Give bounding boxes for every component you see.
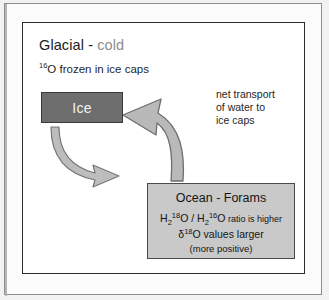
caption-line-2: of water to: [216, 101, 275, 114]
ocean-forams-box: Ocean - Forams H218O / H216O ratio is hi…: [147, 183, 295, 259]
page-title: Glacial - cold: [39, 37, 124, 53]
title-main: Glacial -: [39, 37, 97, 53]
delta-text: O values larger: [193, 228, 264, 240]
delta-superscript: 18: [184, 227, 192, 236]
net-transport-caption: net transport of water to ice caps: [216, 88, 275, 127]
isotope-subtitle: 16O frozen in ice caps: [39, 63, 149, 75]
ocean-note: (more positive): [148, 243, 294, 254]
subtitle-text: O frozen in ice caps: [47, 63, 149, 75]
caption-line-1: net transport: [216, 88, 275, 101]
ratio-tail-text: ratio is higher: [225, 214, 282, 224]
ocean-delta-line: δ18O values larger: [148, 228, 294, 240]
ratio-h2: H: [197, 212, 205, 224]
net-transport-arrow: [123, 99, 183, 181]
ratio-sup-18: 18: [172, 211, 180, 220]
ocean-ratio-formula: H218O / H216O ratio is higher: [148, 212, 294, 224]
ice-box-label: Ice: [72, 100, 92, 116]
ice-to-ocean-arrow: [51, 127, 119, 187]
diagram-panel: Glacial - cold 16O frozen in ice caps Ic…: [22, 22, 305, 274]
title-accent: cold: [97, 37, 124, 53]
ocean-box-title: Ocean - Forams: [148, 191, 294, 205]
ice-box: Ice: [41, 92, 123, 123]
ratio-sup-16: 16: [209, 211, 217, 220]
ratio-slash: /: [188, 212, 197, 224]
figure-screenshot: Glacial - cold 16O frozen in ice caps Ic…: [0, 0, 329, 300]
caption-line-3: ice caps: [216, 114, 275, 127]
ratio-h1: H: [160, 212, 168, 224]
